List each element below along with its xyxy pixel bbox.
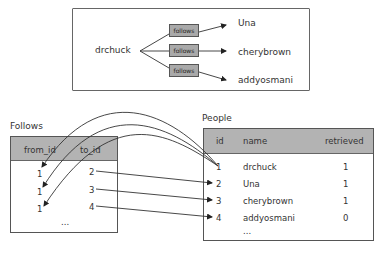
connector-arrows	[0, 0, 383, 256]
